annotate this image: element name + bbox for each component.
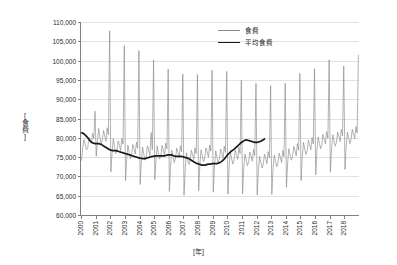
y-tick-label: 110,000 [53,19,76,26]
x-tick-mark [315,215,316,219]
y-tick-label: 105,000 [53,38,77,45]
x-tick-mark [198,215,199,219]
series-line-average [82,133,265,165]
legend-swatch-average-icon [218,42,240,43]
x-tick-mark [81,215,82,219]
x-tick-label: 2002 [107,221,114,235]
legend: 食費 平均食費 [218,24,273,48]
x-tick-mark [242,215,243,219]
x-tick-label: 2013 [268,221,275,235]
x-tick-label: 2004 [136,221,143,235]
x-tick-label: 2005 [151,221,158,235]
x-tick-mark [227,215,228,219]
series-lines [81,22,359,215]
x-tick-label: 2003 [122,221,129,235]
x-tick-label: 2009 [209,221,216,235]
plot-area: 60,00065,00070,00075,00080,00085,00090,0… [80,22,359,216]
x-tick-mark [286,215,287,219]
legend-swatch-monthly-icon [218,30,240,31]
x-tick-label: 2011 [239,221,246,235]
y-tick-label: 70,000 [56,173,76,180]
y-tick-label: 95,000 [56,76,76,83]
x-tick-mark [154,215,155,219]
legend-item-average: 平均食費 [218,36,273,48]
x-tick-label: 2014 [283,221,290,235]
x-tick-mark [96,215,97,219]
y-tick-label: 60,000 [56,212,76,219]
y-axis-label-text: [食費] [22,112,29,140]
x-tick-label: 2017 [326,221,333,235]
y-tick-label: 75,000 [56,154,76,161]
legend-label-monthly: 食費 [245,25,259,35]
x-tick-mark [213,215,214,219]
x-tick-mark [344,215,345,219]
x-tick-label: 2008 [195,221,202,235]
x-tick-mark [169,215,170,219]
x-tick-mark [300,215,301,219]
x-axis-label: [年] [0,246,397,256]
x-tick-mark [110,215,111,219]
x-tick-label: 2007 [180,221,187,235]
x-tick-label: 2006 [166,221,173,235]
x-tick-label: 2012 [253,221,260,235]
x-tick-mark [183,215,184,219]
y-tick-label: 80,000 [56,134,76,141]
x-tick-label: 2015 [297,221,304,235]
legend-item-monthly: 食費 [218,24,273,36]
x-tick-label: 2018 [341,221,348,235]
x-tick-label: 2016 [312,221,319,235]
x-tick-mark [330,215,331,219]
x-tick-mark [271,215,272,219]
y-tick-label: 90,000 [56,96,76,103]
y-tick-label: 65,000 [56,192,76,199]
food-expense-chart: [食費] 60,00065,00070,00075,00080,00085,00… [0,0,397,265]
y-axis-label: [食費] [14,86,36,166]
y-tick-label: 85,000 [56,115,76,122]
x-tick-label: 2001 [92,221,99,235]
legend-label-average: 平均食費 [245,37,273,47]
series-line-monthly [82,31,359,195]
x-tick-label: 2010 [224,221,231,235]
y-tick-label: 100,000 [53,57,77,64]
x-tick-label: 2000 [78,221,85,235]
x-tick-mark [140,215,141,219]
x-tick-mark [257,215,258,219]
x-tick-mark [125,215,126,219]
